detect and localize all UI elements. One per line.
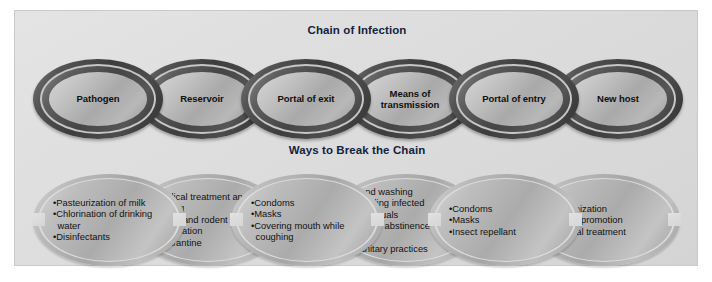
break-link-list-item: •Disinfectants: [53, 231, 171, 242]
chain-link-face: Pathogen: [49, 72, 147, 126]
break-link-gap-left: [32, 213, 45, 226]
chain-of-infection-row: PathogenReservoirPortal of exitMeans of …: [33, 59, 681, 139]
chain-link-1: Pathogen: [33, 59, 163, 139]
break-link-1: •Pasteurization of milk•Chlorination of …: [33, 174, 185, 266]
chain-of-infection-diagram: Chain of Infection PathogenReservoirPort…: [0, 0, 712, 282]
break-link-gap-left: [428, 213, 441, 226]
break-link-list-item: •Covering mouth while coughing: [251, 220, 369, 243]
break-link-gap-right: [569, 213, 582, 226]
break-link-gap-left: [230, 213, 243, 226]
break-link-list: •Pasteurization of milk•Chlorination of …: [53, 197, 171, 243]
chain-link-5: Portal of entry: [449, 59, 579, 139]
break-link-gap-right: [173, 213, 186, 226]
chain-of-infection-title: Chain of Infection: [15, 24, 699, 36]
chain-link-label: Reservoir: [180, 93, 223, 104]
break-link-list: •Condoms•Masks•Insect repellant: [449, 203, 567, 237]
break-link-list-item: •Pasteurization of milk: [53, 197, 171, 208]
break-link-3: •Condoms•Masks•Covering mouth while coug…: [231, 174, 383, 266]
chain-link-face: Means of transmission: [361, 72, 459, 126]
chain-link-face: Portal of entry: [465, 72, 563, 126]
chain-link-3: Portal of exit: [241, 59, 371, 139]
break-link-list-item: •Chlorination of drinking water: [53, 209, 171, 232]
break-link-gap-right: [371, 213, 384, 226]
chain-link-label: Means of transmission: [381, 88, 440, 110]
break-link-list-item: •Masks: [449, 214, 567, 225]
diagram-panel: Chain of Infection PathogenReservoirPort…: [14, 10, 698, 266]
break-link-list-item: •Condoms: [251, 197, 369, 208]
chain-link-face: Reservoir: [153, 72, 251, 126]
break-link-gap-right: [668, 213, 681, 226]
ways-to-break-the-chain-row: •Pasteurization of milk•Chlorination of …: [33, 174, 681, 266]
break-link-list: •Condoms•Masks•Covering mouth while coug…: [251, 197, 369, 243]
chain-link-face: New host: [569, 72, 667, 126]
break-link-list-item: •Insect repellant: [449, 226, 567, 237]
chain-link-label: Portal of entry: [482, 93, 546, 104]
chain-link-label: New host: [597, 93, 639, 104]
chain-link-label: Pathogen: [77, 93, 120, 104]
break-link-list-item: •Condoms: [449, 203, 567, 214]
break-link-5: •Condoms•Masks•Insect repellant: [429, 174, 581, 266]
ways-to-break-the-chain-title: Ways to Break the Chain: [15, 144, 699, 156]
break-link-list-item: •Masks: [251, 209, 369, 220]
chain-link-label: Portal of exit: [278, 93, 335, 104]
chain-link-face: Portal of exit: [257, 72, 355, 126]
